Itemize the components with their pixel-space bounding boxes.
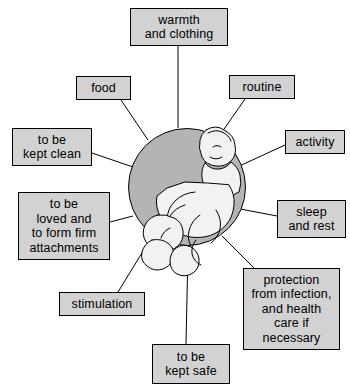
- node-label: to be loved and to form firm attachments: [29, 197, 98, 255]
- node-loved[interactable]: to be loved and to form firm attachments: [18, 192, 110, 260]
- node-label: to be kept clean: [23, 133, 81, 162]
- node-label: warmth and clothing: [145, 13, 214, 42]
- node-kept-clean[interactable]: to be kept clean: [12, 128, 92, 166]
- node-label: activity: [295, 135, 334, 150]
- node-activity[interactable]: activity: [285, 130, 345, 154]
- node-label: stimulation: [72, 297, 133, 312]
- node-sleep[interactable]: sleep and rest: [277, 200, 346, 238]
- node-label: routine: [243, 80, 282, 95]
- node-label: protection from infection, and health ca…: [251, 273, 331, 346]
- node-label: to be kept safe: [165, 350, 217, 379]
- node-label: sleep and rest: [289, 205, 335, 234]
- node-food[interactable]: food: [76, 76, 131, 100]
- node-warmth[interactable]: warmth and clothing: [130, 8, 228, 46]
- node-kept-safe[interactable]: to be kept safe: [152, 344, 230, 384]
- needs-of-a-baby-diagram: warmth and clothingfoodroutineto be kept…: [0, 0, 350, 391]
- node-protection[interactable]: protection from infection, and health ca…: [243, 268, 340, 350]
- node-routine[interactable]: routine: [229, 75, 295, 99]
- node-stimulation[interactable]: stimulation: [59, 292, 145, 316]
- node-label: food: [91, 81, 116, 96]
